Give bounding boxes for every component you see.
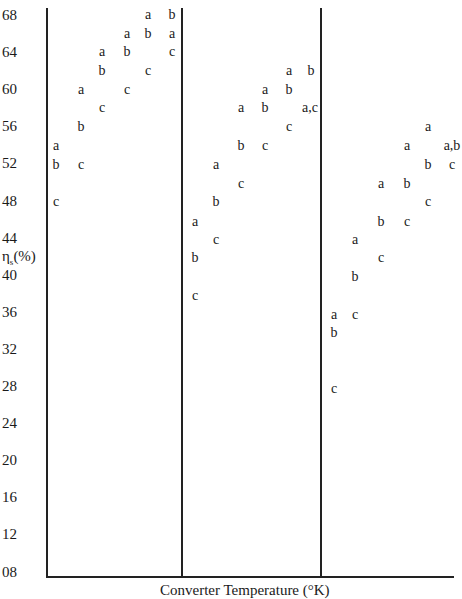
point-label: b — [53, 158, 60, 172]
y-tick-label: 32 — [2, 341, 28, 357]
point-label: b — [352, 270, 359, 284]
point-label: b — [425, 158, 432, 172]
point-label: b — [378, 215, 385, 229]
point-label: b — [124, 45, 131, 59]
point-label: a — [192, 215, 198, 229]
y-tick-label: 16 — [2, 489, 28, 505]
point-label: a — [286, 64, 292, 78]
y-label-symbol: η — [2, 248, 10, 264]
point-label: b — [308, 64, 315, 78]
point-label: c — [78, 158, 84, 172]
point-label: b — [213, 195, 220, 209]
point-label: a — [425, 120, 431, 134]
point-label: a,b — [444, 139, 461, 153]
point-label: b — [404, 177, 411, 191]
point-label: b — [238, 139, 245, 153]
point-label: a — [331, 308, 337, 322]
y-tick-label: 60 — [2, 81, 28, 97]
y-tick-label: 64 — [2, 44, 28, 60]
point-label: c — [404, 215, 410, 229]
point-label: a — [404, 139, 410, 153]
point-label: a — [262, 83, 268, 97]
point-label: c — [145, 64, 151, 78]
point-label: a — [238, 101, 244, 115]
y-tick-label: 12 — [2, 526, 28, 542]
point-label: a — [78, 83, 84, 97]
point-label: c — [192, 289, 198, 303]
point-label: a — [145, 8, 151, 22]
point-label: c — [213, 233, 219, 247]
point-label: b — [262, 101, 269, 115]
y-tick-label: 68 — [2, 7, 28, 23]
point-label: b — [192, 251, 199, 265]
point-label: a — [169, 27, 175, 41]
point-label: b — [145, 27, 152, 41]
point-label: a — [213, 158, 219, 172]
point-label: b — [286, 83, 293, 97]
y-tick-label: 52 — [2, 155, 28, 171]
point-label: b — [99, 64, 106, 78]
y-axis-label: ηs(%) — [2, 248, 36, 270]
point-label: b — [169, 8, 176, 22]
point-label: c — [331, 382, 337, 396]
point-label: c — [124, 83, 130, 97]
y-tick-label: 44 — [2, 230, 28, 246]
point-label: c — [169, 45, 175, 59]
point-label: a — [124, 27, 130, 41]
point-label: c — [238, 177, 244, 191]
y-label-unit: (%) — [13, 248, 36, 264]
point-label: c — [352, 308, 358, 322]
x-axis-line — [46, 576, 454, 578]
y-tick-label: 48 — [2, 193, 28, 209]
point-label: c — [449, 158, 455, 172]
point-label: c — [262, 139, 268, 153]
y-tick-label: 08 — [2, 564, 28, 580]
panel-divider-1 — [181, 8, 183, 578]
y-tick-label: 36 — [2, 304, 28, 320]
panel-divider-2 — [320, 8, 322, 578]
point-label: c — [99, 101, 105, 115]
point-label: a — [352, 233, 358, 247]
point-label: a — [53, 139, 59, 153]
y-tick-label: 28 — [2, 378, 28, 394]
point-label: a — [99, 45, 105, 59]
y-tick-label: 56 — [2, 118, 28, 134]
y-tick-label: 20 — [2, 452, 28, 468]
point-label: b — [78, 120, 85, 134]
point-label: c — [286, 120, 292, 134]
x-axis-label: Converter Temperature (°K) — [160, 582, 330, 599]
y-axis-line — [46, 8, 48, 578]
point-label: c — [378, 251, 384, 265]
point-label: a — [378, 177, 384, 191]
point-label: b — [331, 326, 338, 340]
point-label: c — [425, 195, 431, 209]
point-label: c — [53, 195, 59, 209]
y-tick-label: 24 — [2, 415, 28, 431]
point-label: a,c — [302, 101, 318, 115]
